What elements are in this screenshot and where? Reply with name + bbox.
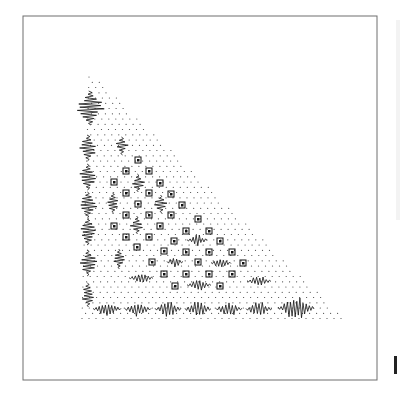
adjacent-panel-edge (396, 20, 400, 220)
dot-grid (81, 76, 341, 319)
spectral-triangle-figure (0, 0, 400, 400)
adjacent-panel-mark (394, 356, 397, 374)
figure-frame (23, 16, 377, 380)
waveform-glyphs (77, 91, 314, 318)
